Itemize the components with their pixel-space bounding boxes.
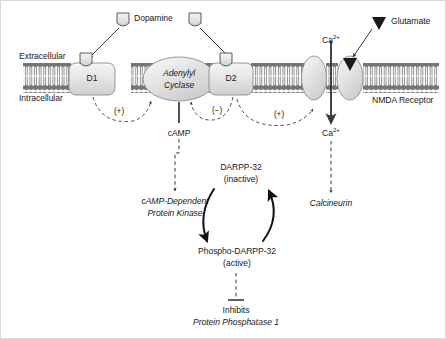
inhibits-label: Inhibits xyxy=(223,306,250,316)
arc-dephosphorylation-darpp32 xyxy=(263,191,274,241)
membrane-segment-right xyxy=(363,63,439,93)
calcium-intracellular-label: Ca2+ xyxy=(322,126,340,139)
camp-label: cAMP xyxy=(168,129,191,139)
membrane-segment-d2-channel xyxy=(251,63,305,93)
dopamine-ligand-left xyxy=(117,13,129,26)
receptor-d1-label: D1 xyxy=(87,74,98,84)
arrow-glutamate-to-nmda xyxy=(353,29,372,57)
sign-d2-activates-channel: (+) xyxy=(274,110,284,119)
calcineurin-label: Calcineurin xyxy=(310,199,352,209)
calcium-channel[interactable] xyxy=(302,56,327,100)
dopamine-ligand-right xyxy=(189,13,201,26)
arrow-camp-to-pka xyxy=(175,139,179,191)
receptor-d2-label: D2 xyxy=(226,74,237,84)
protein-phosphatase-1-label: Protein Phosphatase 1 xyxy=(193,318,279,328)
calcium-extracellular-label: Ca2+ xyxy=(322,33,340,46)
phospho-darpp32-line1: Phospho-DARPP-32 xyxy=(198,247,276,257)
nmda-receptor-label: NMDA Receptor xyxy=(372,96,433,106)
pka-label-line1: cAMP-Dependent xyxy=(141,197,208,207)
intracellular-label: Intracellular xyxy=(19,94,63,104)
darpp32-inactive-line1: DARPP-32 xyxy=(220,163,262,173)
adenylyl-cyclase-label-line1: Adenylyl xyxy=(163,69,195,79)
glutamate-label: Glutamate xyxy=(391,17,430,27)
membrane-segment-between-channels xyxy=(326,63,338,93)
enzyme-adenylyl-cyclase[interactable] xyxy=(143,57,215,101)
d1-bound-ligand-icon xyxy=(80,53,92,66)
pka-label-line2: Protein Kinase xyxy=(147,209,202,219)
phospho-darpp32-line2: (active) xyxy=(223,259,251,269)
d2-bound-ligand-icon xyxy=(220,53,232,66)
extracellular-label: Extracellular xyxy=(19,52,66,62)
sign-d1-activates: (+) xyxy=(114,107,124,116)
dopamine-label: Dopamine xyxy=(134,14,173,24)
sign-d2-inhibits: (−) xyxy=(212,106,222,115)
receptor-nmda[interactable] xyxy=(337,56,363,100)
membrane-segment-left xyxy=(23,63,71,93)
adenylyl-cyclase-label-line2: Cyclase xyxy=(164,81,194,91)
darpp32-inactive-line2: (inactive) xyxy=(224,175,258,185)
glutamate-ligand-icon xyxy=(372,17,386,30)
arrow-dopamine-to-d1 xyxy=(89,28,119,58)
figure-canvas: Extracellular Intracellular Dopamine Glu… xyxy=(0,0,446,339)
